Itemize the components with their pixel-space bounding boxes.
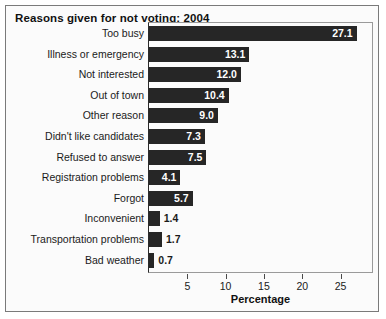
bar-value-label: 0.7 xyxy=(158,253,173,268)
category-label: Illness or emergency xyxy=(47,47,144,62)
category-label: Didn't like candidates xyxy=(45,129,144,144)
bar-value-label: 7.5 xyxy=(149,150,202,165)
bar xyxy=(149,253,154,268)
bar-value-label: 10.4 xyxy=(149,88,225,103)
axis-tick-label: 5 xyxy=(184,280,190,292)
x-axis-title: Percentage xyxy=(148,293,373,305)
bar-value-label: 7.3 xyxy=(149,129,201,144)
axis-tick xyxy=(341,274,342,279)
axis-tick-label: 15 xyxy=(258,280,270,292)
bar xyxy=(149,232,162,247)
category-label: Too busy xyxy=(102,26,144,41)
category-label: Transportation problems xyxy=(31,232,144,247)
axis-tick-label: 10 xyxy=(220,280,232,292)
axis-tick xyxy=(264,274,265,279)
axis-tick-label: 25 xyxy=(335,280,347,292)
bar xyxy=(149,211,160,226)
category-label: Inconvenient xyxy=(84,211,144,226)
bar-value-label: 5.7 xyxy=(149,191,189,206)
bar-value-label: 4.1 xyxy=(149,170,176,185)
category-label: Refused to answer xyxy=(56,150,144,165)
category-label: Bad weather xyxy=(85,253,144,268)
bar-value-label: 9.0 xyxy=(149,108,214,123)
chart-figure: Reasons given for not voting: 2004 Too b… xyxy=(5,5,379,312)
category-label: Other reason xyxy=(83,108,144,123)
category-label: Registration problems xyxy=(42,170,144,185)
category-label: Not interested xyxy=(79,67,144,82)
axis-tick xyxy=(226,274,227,279)
axis-tick xyxy=(302,274,303,279)
category-label: Forgot xyxy=(114,191,144,206)
axis-tick xyxy=(187,274,188,279)
category-axis-labels: Too busyIllness or emergencyNot interest… xyxy=(6,22,144,273)
bar-value-label: 1.4 xyxy=(164,211,179,226)
value-axis: 510152025 xyxy=(149,22,375,82)
bar-value-label: 1.7 xyxy=(166,232,181,247)
category-label: Out of town xyxy=(90,88,144,103)
axis-tick-label: 20 xyxy=(296,280,308,292)
